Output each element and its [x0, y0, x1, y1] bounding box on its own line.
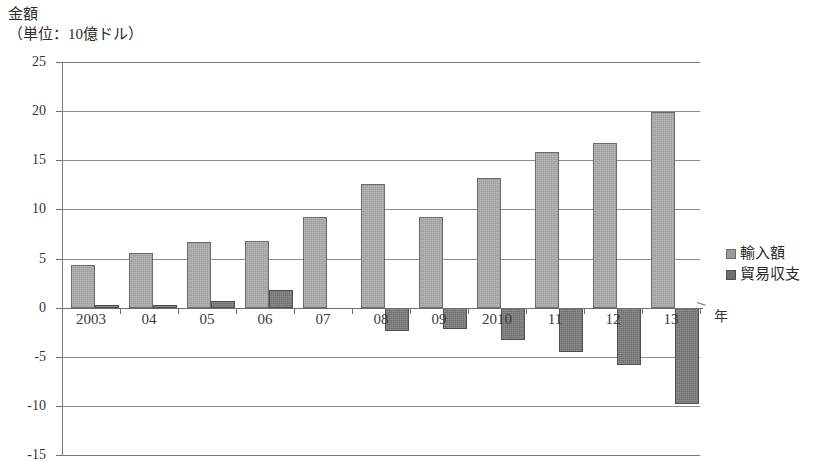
y-axis-tick-mark [56, 357, 62, 358]
gridline [62, 357, 700, 358]
y-axis-tick-label: 20 [0, 104, 46, 118]
x-axis-tick-label: 09 [410, 311, 468, 328]
bar-import [535, 152, 559, 307]
x-axis-tick-label: 04 [120, 311, 178, 328]
x-axis-tick-label: 2010 [468, 311, 526, 328]
y-axis-tick-mark [56, 209, 62, 210]
x-axis-tick-label: 13 [642, 311, 700, 328]
gridline [62, 62, 700, 63]
y-axis-tick-label: 10 [0, 202, 46, 216]
bar-import [71, 265, 95, 307]
bar-import [477, 178, 501, 308]
y-axis-tick-label: -10 [0, 399, 46, 413]
y-axis-tick-mark [56, 160, 62, 161]
legend-swatch-balance-icon [726, 270, 736, 280]
x-axis-tick-label: 08 [352, 311, 410, 328]
bar-import [245, 241, 269, 308]
legend-item-import: 輸入額 [726, 243, 800, 264]
plot-area [62, 62, 700, 455]
y-axis-tick-mark [56, 406, 62, 407]
chart-legend: 輸入額 貿易収支 [726, 243, 800, 285]
x-axis-tick-label: 07 [294, 311, 352, 328]
gridline [62, 111, 700, 112]
y-axis-tick-label: -5 [0, 350, 46, 364]
y-axis-tick-mark [56, 111, 62, 112]
gridline [62, 455, 700, 456]
legend-label-import: 輸入額 [740, 245, 785, 262]
y-axis-line [62, 62, 63, 456]
x-axis-line [62, 308, 703, 309]
bar-trade-balance [211, 301, 235, 308]
y-axis-tick-label: 0 [0, 301, 46, 315]
legend-item-balance: 貿易収支 [726, 264, 800, 285]
y-axis-tick-mark [56, 259, 62, 260]
y-axis-tick-mark [56, 62, 62, 63]
legend-label-balance: 貿易収支 [740, 266, 800, 283]
bar-import [187, 242, 211, 308]
x-axis-arrow-icon [697, 302, 706, 309]
y-axis-tick-label: 5 [0, 252, 46, 266]
chart-title: 金額 [8, 4, 143, 24]
x-axis-tick-label: 12 [584, 311, 642, 328]
bar-import [129, 253, 153, 308]
y-axis-tick-label: 25 [0, 55, 46, 69]
gridline [62, 406, 700, 407]
x-axis-tick-mark [700, 309, 701, 314]
x-axis-tick-label: 05 [178, 311, 236, 328]
x-axis-tick-label: 11 [526, 311, 584, 328]
y-axis-tick-label: -15 [0, 448, 46, 462]
bar-import [593, 143, 617, 308]
x-axis-unit-label: 年 [714, 305, 728, 325]
y-axis-tick-label: 15 [0, 153, 46, 167]
bar-import [303, 217, 327, 307]
x-axis-tick-label: 06 [236, 311, 294, 328]
chart-unit-note: （単位：10億ドル） [8, 24, 143, 44]
legend-swatch-import-icon [726, 249, 736, 259]
chart-axis-caption: 金額 （単位：10億ドル） [8, 4, 143, 44]
bar-import [361, 184, 385, 308]
x-axis-tick-label: 2003 [62, 311, 120, 328]
y-axis-tick-mark [56, 455, 62, 456]
bar-trade-balance [269, 290, 293, 308]
bar-import [651, 112, 675, 308]
bar-import [419, 217, 443, 307]
